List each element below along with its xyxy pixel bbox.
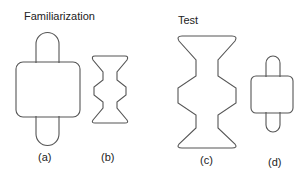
- shape-d: [251, 56, 293, 132]
- label-c: (c): [200, 154, 213, 166]
- heading-familiarization: Familiarization: [24, 10, 95, 22]
- shape-a: [16, 33, 80, 146]
- figure: Familiarization Test (a) (b) (c) (d): [0, 0, 304, 177]
- shape-c: [178, 36, 236, 148]
- heading-test: Test: [178, 14, 198, 26]
- label-b: (b): [101, 151, 114, 163]
- label-d: (d): [268, 156, 281, 168]
- shape-b: [92, 56, 127, 123]
- label-a: (a): [38, 151, 51, 163]
